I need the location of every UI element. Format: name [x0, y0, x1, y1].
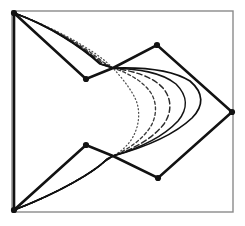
- figure-container: [0, 0, 245, 226]
- dot-top-left-corner: [11, 10, 17, 16]
- dot-upper-valley: [83, 76, 89, 82]
- curve-family-group: [14, 13, 201, 210]
- dot-upper-peak: [154, 42, 160, 48]
- curve-2-dashed-fine: [14, 13, 156, 210]
- geometric-figure: [0, 0, 245, 226]
- curve-5-solid-outer: [14, 13, 201, 210]
- dot-lower-valley: [155, 175, 161, 181]
- control-polygon: [14, 13, 232, 210]
- curve-3-dashed-coarse: [14, 13, 170, 210]
- dot-right-apex: [229, 109, 235, 115]
- dot-lower-peak: [83, 142, 89, 148]
- dot-bottom-left-corner: [11, 207, 17, 213]
